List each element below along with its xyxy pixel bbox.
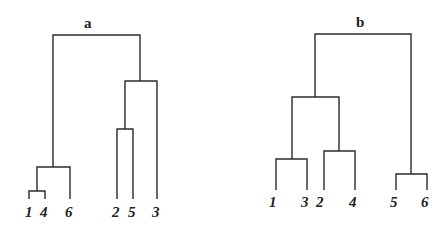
dendrogram-b-leaf: 2 <box>315 194 324 210</box>
dendrogram-figure: a 1 4 6 2 5 3 b 1 3 2 4 5 6 <box>0 0 448 226</box>
dendrogram-a-link-25-3 <box>125 81 157 199</box>
dendrogram-b: b 1 3 2 4 5 6 <box>269 14 429 210</box>
dendrogram-b-link-1-3 <box>276 159 307 190</box>
dendrogram-b-leaf: 1 <box>269 194 277 210</box>
dendrogram-a-leaf: 4 <box>39 204 48 220</box>
dendrogram-b-link-5-6 <box>396 174 427 190</box>
dendrogram-a-leaf: 5 <box>128 204 136 220</box>
dendrogram-b-leaf: 5 <box>390 194 398 210</box>
dendrogram-b-title: b <box>356 14 364 30</box>
dendrogram-a: a 1 4 6 2 5 3 <box>25 15 160 220</box>
dendrogram-a-title: a <box>84 15 92 31</box>
dendrogram-b-leaf: 4 <box>348 194 357 210</box>
dendrogram-b-leaf: 6 <box>421 194 429 210</box>
dendrogram-a-leaf: 6 <box>65 204 73 220</box>
dendrogram-a-link-14-6 <box>37 167 70 199</box>
dendrogram-a-root-link <box>53 35 140 167</box>
dendrogram-b-leaf: 3 <box>300 194 309 210</box>
dendrogram-a-leaf: 1 <box>25 204 33 220</box>
dendrogram-b-root-link <box>315 34 411 174</box>
dendrogram-b-link-2-4 <box>324 151 355 190</box>
dendrogram-a-leaf: 2 <box>111 204 120 220</box>
dendrogram-a-link-1-4 <box>29 191 45 199</box>
dendrogram-b-link-13-24 <box>292 97 339 159</box>
dendrogram-a-link-2-5 <box>117 129 133 199</box>
dendrogram-a-leaf: 3 <box>151 204 160 220</box>
